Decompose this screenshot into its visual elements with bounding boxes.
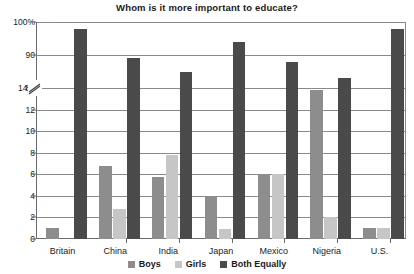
bar-india-girls: [166, 155, 179, 239]
legend-label: Boys: [139, 259, 161, 269]
bar-break-icon: [286, 82, 299, 88]
bar-japan-both-equally: [233, 42, 246, 239]
y-tick-mark: [31, 109, 36, 110]
axis-break-icon: [28, 80, 42, 96]
y-tick-label: 90: [1, 50, 35, 60]
chart-legend: BoysGirlsBoth Equally: [0, 259, 414, 269]
x-label-mexico: Mexico: [260, 246, 289, 256]
x-label-britain: Britain: [50, 246, 76, 256]
y-tick-label: 6: [1, 169, 35, 179]
legend-label: Girls: [186, 259, 207, 269]
y-tick-label: 12: [1, 105, 35, 115]
bar-china-both-equally: [127, 58, 140, 239]
bar-mexico-both-equally: [286, 62, 299, 239]
legend-swatch-icon: [175, 261, 182, 268]
legend-swatch-icon: [220, 261, 227, 268]
bar-india-both-equally: [180, 72, 193, 239]
y-tick-mark: [31, 174, 36, 175]
bar-break-icon: [180, 82, 193, 88]
x-label-china: China: [104, 246, 128, 256]
gridline: [37, 22, 406, 23]
bar-mexico-girls: [272, 174, 285, 239]
y-tick-mark: [31, 55, 36, 56]
legend-item-both-equally[interactable]: Both Equally: [220, 259, 286, 269]
legend-label: Both Equally: [231, 259, 286, 269]
legend-item-boys[interactable]: Boys: [128, 259, 161, 269]
bar-us-both-equally: [391, 29, 404, 239]
y-tick-mark: [31, 152, 36, 153]
y-tick-label: 0: [1, 234, 35, 244]
bar-britain-both-equally: [74, 29, 87, 239]
bar-nigeria-boys: [310, 90, 323, 239]
bar-india-boys: [152, 177, 165, 239]
x-label-nigeria: Nigeria: [312, 246, 341, 256]
y-tick-label: 8: [1, 148, 35, 158]
bar-nigeria-girls: [324, 217, 337, 239]
bar-japan-girls: [219, 229, 232, 239]
x-label-us: U.S.: [371, 246, 389, 256]
bar-break-icon: [233, 82, 246, 88]
chart-container: Whom is it more important to educate? 10…: [0, 0, 414, 274]
legend-swatch-icon: [128, 261, 135, 268]
y-tick-label: 2: [1, 212, 35, 222]
x-label-india: India: [158, 246, 178, 256]
y-tick-mark: [31, 195, 36, 196]
bar-break-icon: [391, 82, 404, 88]
y-tick-label: 10: [1, 126, 35, 136]
legend-item-girls[interactable]: Girls: [175, 259, 207, 269]
y-tick-label: 100%: [1, 17, 35, 27]
y-tick-mark: [31, 131, 36, 132]
y-tick-mark: [31, 239, 36, 240]
bar-mexico-boys: [258, 174, 271, 239]
bar-japan-boys: [205, 197, 218, 239]
bar-britain-boys: [46, 228, 59, 239]
y-tick-label: 4: [1, 191, 35, 201]
gridline: [37, 55, 406, 56]
bar-break-icon: [74, 82, 87, 88]
y-tick-mark: [31, 217, 36, 218]
bar-break-icon: [127, 82, 140, 88]
bar-us-boys: [363, 228, 376, 239]
bar-break-icon: [338, 82, 351, 88]
y-tick-mark: [31, 22, 36, 23]
chart-title: Whom is it more important to educate?: [0, 2, 414, 13]
bar-nigeria-both-equally: [338, 78, 351, 239]
bar-us-girls: [377, 228, 390, 239]
bar-china-girls: [113, 209, 126, 239]
x-label-japan: Japan: [209, 246, 234, 256]
bar-china-boys: [99, 166, 112, 239]
